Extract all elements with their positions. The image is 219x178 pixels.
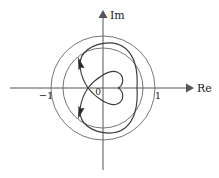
tick-label-plus-one: 1 bbox=[155, 90, 161, 101]
origin-label: 0 bbox=[95, 87, 101, 97]
right-arrow-icon bbox=[186, 84, 194, 93]
real-axis bbox=[10, 84, 194, 93]
plot-canvas: Im Re −1 1 0 bbox=[0, 0, 219, 178]
real-axis-label: Re bbox=[197, 82, 212, 95]
up-arrow-icon bbox=[99, 10, 108, 18]
imaginary-axis-label: Im bbox=[110, 9, 125, 22]
tick-label-minus-one: −1 bbox=[39, 90, 54, 101]
nyquist-plot-figure: Im Re −1 1 0 bbox=[0, 0, 219, 178]
